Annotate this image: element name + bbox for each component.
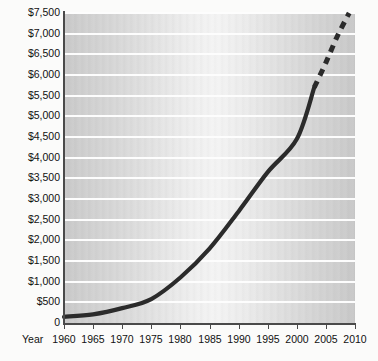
x-axis-tick-mark [355,324,356,329]
y-axis-tick-label: $1,000 [4,276,60,287]
chart-figure: $7,500$7,000$6,500$6,000$5,500$5,000$4,5… [0,0,378,361]
gridline [64,33,355,35]
y-axis-tick-label: $7,500 [4,7,60,18]
gridline [64,301,355,303]
gridline [64,95,355,97]
gridline [64,219,355,221]
gridline [64,239,355,241]
x-axis-tick-mark [210,324,211,329]
gridline [64,177,355,179]
y-axis-tick-label: $5,000 [4,110,60,121]
gridline [64,53,355,55]
y-axis-tick-label: $7,000 [4,28,60,39]
gridline [64,74,355,76]
x-axis-tick-mark [326,324,327,329]
x-axis-tick-mark [122,324,123,329]
x-axis-tick-mark [64,324,65,329]
x-axis-tick-mark [268,324,269,329]
plot-area [64,13,355,323]
y-axis-tick-label: $4,000 [4,152,60,163]
y-axis-tick-label: $6,500 [4,48,60,59]
x-axis-title: Year [22,333,43,345]
y-axis-tick-label: $1,500 [4,255,60,266]
y-axis-tick-label: $500 [4,296,60,307]
x-axis-tick-mark [297,324,298,329]
gridline [64,198,355,200]
gridline [64,281,355,283]
y-axis-tick-label: $2,500 [4,214,60,225]
y-axis-tick-label: $6,000 [4,69,60,80]
y-axis-tick-label: $5,500 [4,90,60,101]
gridline [64,157,355,159]
plot-background-texture [64,13,355,323]
y-axis-tick-label: $3,500 [4,172,60,183]
y-axis-tick-label: 0 [4,317,60,328]
y-axis-tick-label: $2,000 [4,234,60,245]
gridline [64,115,355,117]
gridline [64,260,355,262]
x-axis-tick-label: 2010 [335,333,375,345]
x-axis-tick-mark [93,324,94,329]
gridline [64,136,355,138]
x-axis-tick-mark [151,324,152,329]
y-axis-tick-label: $3,000 [4,193,60,204]
x-axis-tick-mark [239,324,240,329]
x-axis-tick-mark [180,324,181,329]
y-axis-tick-label: $4,500 [4,131,60,142]
y-axis-line [63,11,65,325]
gridline [64,12,355,14]
